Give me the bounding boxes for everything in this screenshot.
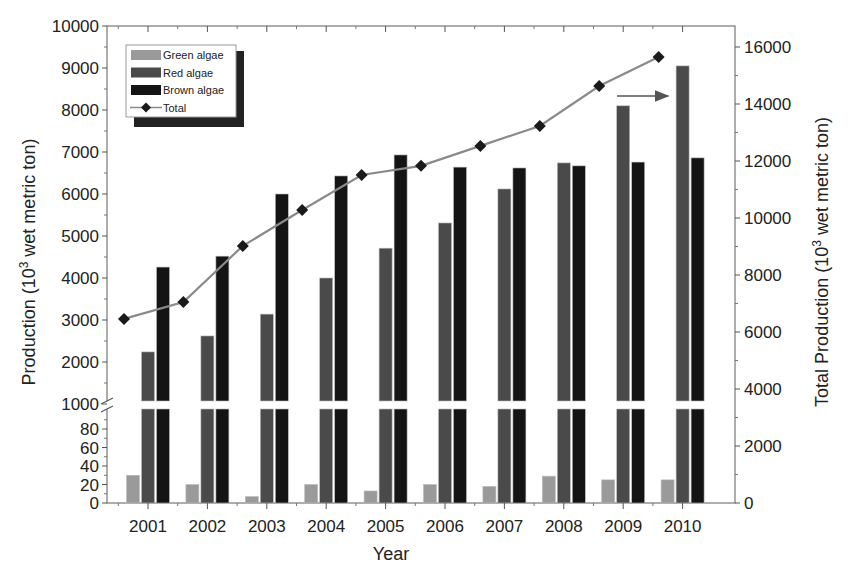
x-tick-label: 2004 [307,517,345,536]
bar-green-algae [305,485,318,504]
bar-brown-algae [157,267,170,503]
legend-label: Brown algae [163,84,224,96]
bar-red-algae [142,352,155,503]
chart: 1000200030004000500060007000800090001000… [0,0,851,581]
x-tick-label: 2005 [367,517,405,536]
bar-red-algae [557,163,570,503]
right-tick-label: 2000 [744,437,782,456]
bar-red-algae [498,189,511,503]
left-tick-label: 0 [90,494,99,513]
left-tick-label: 10000 [52,17,99,36]
legend-swatch [131,68,161,78]
y-axis-right-title: Total Production (103 wet metric ton) [810,117,832,407]
x-tick-label: 2006 [426,517,464,536]
total-marker-diamond [534,120,546,132]
bar-red-algae [617,106,630,503]
x-tick-label: 2010 [664,517,702,536]
left-tick-label: 8000 [61,101,99,120]
bar-brown-algae [632,162,645,503]
x-tick-label: 2001 [129,517,167,536]
left-tick-label: 40 [80,457,99,476]
right-tick-label: 6000 [744,323,782,342]
total-marker-diamond [653,51,665,63]
bar-green-algae [364,491,377,503]
bar-brown-algae [394,155,407,503]
bar-red-algae [379,248,392,503]
bar-brown-algae [572,166,585,503]
legend-item-green-algae: Green algae [131,49,224,61]
legend-label: Green algae [163,49,224,61]
x-tick-label: 2007 [485,517,523,536]
right-tick-label: 10000 [744,209,791,228]
bar-green-algae [424,485,437,504]
bar-green-algae [483,486,496,503]
bar-red-algae [439,223,452,503]
left-tick-label: 5000 [61,227,99,246]
left-tick-label: 80 [80,420,99,439]
right-tick-label: 16000 [744,38,791,57]
legend-swatch [131,85,161,95]
bar-red-algae [201,336,214,503]
left-axis: 1000200030004000500060007000800090001000… [52,17,115,513]
bar-green-algae [245,497,258,503]
left-tick-label: 2000 [61,353,99,372]
right-axis: 0200040006000800010000120001400016000 [735,38,791,513]
left-tick-label: 3000 [61,311,99,330]
bar-green-algae [542,476,555,503]
legend-item-red-algae: Red algae [131,67,213,79]
bar-brown-algae [216,256,229,503]
x-axis-title: Year [373,544,409,564]
total-marker-diamond [296,204,308,216]
bar-red-algae [260,314,273,503]
x-tick-label: 2009 [604,517,642,536]
left-tick-label: 60 [80,439,99,458]
right-tick-label: 12000 [744,152,791,171]
left-tick-label: 6000 [61,185,99,204]
right-tick-label: 0 [744,494,753,513]
left-tick-label: 9000 [61,59,99,78]
bar-red-algae [320,278,333,503]
legend-swatch [131,50,161,60]
bar-green-algae [127,475,140,503]
bar-brown-algae [275,194,288,503]
legend-label: Red algae [163,67,213,79]
left-tick-label: 7000 [61,143,99,162]
bar-red-algae [676,66,689,503]
bar-green-algae [186,485,199,504]
bar-green-algae [602,480,615,503]
x-tick-label: 2008 [545,517,583,536]
bar-brown-algae [335,176,348,503]
bars [127,66,705,503]
bar-brown-algae [691,158,704,503]
right-tick-label: 8000 [744,266,782,285]
legend-item-brown-algae: Brown algae [131,84,224,96]
legend: Green algaeRed algaeBrown algaeTotal [126,45,244,127]
bar-brown-algae [454,167,467,503]
y-axis-title: Production (103 wet metric ton) [17,139,39,386]
left-tick-label: 1000 [61,395,99,414]
total-marker-diamond [118,313,130,325]
total-marker-diamond [593,80,605,92]
bar-brown-algae [513,168,526,503]
left-tick-label: 4000 [61,269,99,288]
right-tick-label: 14000 [744,95,791,114]
x-tick-label: 2003 [248,517,286,536]
x-tick-label: 2002 [188,517,226,536]
right-tick-label: 4000 [744,380,782,399]
total-marker-diamond [356,169,368,181]
total-marker-diamond [415,160,427,172]
left-tick-label: 20 [80,476,99,495]
total-marker-diamond [474,140,486,152]
legend-label: Total [163,102,186,114]
bar-green-algae [661,480,674,503]
